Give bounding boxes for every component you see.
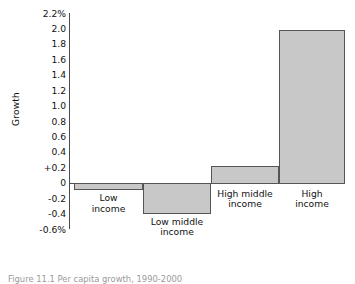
y-axis-tick-labels: 2.2%2.01.81.61.41.21.00.80.60.4+0.20-0.2…	[20, 0, 66, 283]
y-tick-label: 2.2%	[26, 9, 66, 18]
y-tick-label: 2.0	[26, 24, 66, 33]
y-tick-label: 1.6	[26, 55, 66, 64]
bar	[74, 183, 143, 191]
y-tick-label: 1.0	[26, 101, 66, 110]
category-label-line2: income	[131, 227, 223, 238]
y-tick-label: -0.2	[26, 194, 66, 203]
y-tick-label: 1.8	[26, 39, 66, 48]
y-tick-label: +0.2	[26, 163, 66, 172]
plot-area: LowincomeLow middleincomeHigh middleinco…	[69, 8, 345, 234]
y-tick-label: 0.8	[26, 117, 66, 126]
y-tick-label: 1.2	[26, 86, 66, 95]
y-tick-label: 0.6	[26, 132, 66, 141]
figure-caption: Figure 11.1 Per capita growth, 1990-2000	[8, 274, 182, 284]
bar	[211, 166, 279, 184]
bar	[279, 30, 345, 184]
category-label: Low middleincome	[131, 217, 223, 238]
category-label: Highincome	[267, 189, 355, 210]
category-label: Lowincome	[62, 193, 155, 214]
category-label-line2: income	[62, 204, 155, 215]
category-label-line2: income	[267, 199, 355, 210]
y-tick-label: 1.4	[26, 70, 66, 79]
y-tick-label: 0	[26, 178, 66, 187]
y-tick-label: -0.6%	[26, 225, 66, 234]
y-tick-label: 0.4	[26, 147, 66, 156]
y-tick-label: -0.4	[26, 209, 66, 218]
